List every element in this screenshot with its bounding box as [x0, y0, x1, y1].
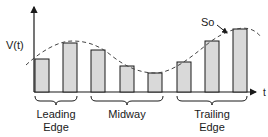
trailing-edge-brace [177, 96, 247, 105]
y-axis-label: V(t) [6, 39, 24, 51]
leading-edge-brace [35, 96, 77, 105]
x-axis-label: t [263, 87, 266, 98]
so-arrow [217, 25, 227, 33]
bar-6 [177, 62, 191, 92]
sampling-diagram: V(t) t So Leading Edge Midway Trailing E… [0, 0, 268, 137]
braces [35, 96, 247, 105]
so-label: So [201, 16, 214, 28]
trailing-edge-label-line2: Edge [199, 121, 225, 133]
midway-label: Midway [108, 108, 146, 120]
bar-5 [148, 73, 162, 92]
midway-brace [91, 96, 163, 105]
bar-3 [91, 50, 105, 92]
bar-1 [35, 59, 49, 92]
bar-4 [120, 66, 134, 92]
envelope-curve [26, 28, 260, 73]
trailing-edge-label-line1: Trailing [194, 108, 230, 120]
bar-2 [63, 43, 77, 92]
bar-7 [205, 41, 219, 92]
bar-8 [233, 29, 247, 92]
leading-edge-label-line2: Edge [43, 121, 69, 133]
leading-edge-label-line1: Leading [36, 108, 75, 120]
